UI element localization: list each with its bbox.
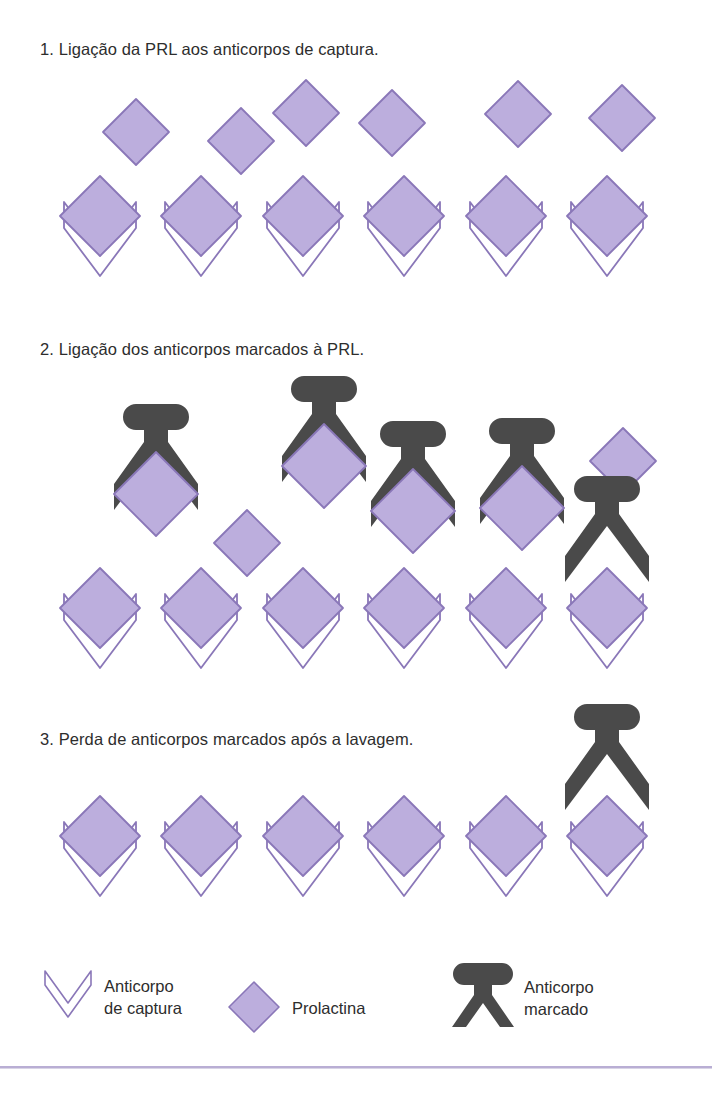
legend: Anticorpo de captura Prolactina Anticorp bbox=[0, 955, 712, 1045]
bottom-rule bbox=[0, 1066, 712, 1068]
labeled-antibody-icon bbox=[452, 961, 514, 1037]
legend-label-line1: Prolactina bbox=[292, 999, 365, 1017]
bottom-rule-inner bbox=[0, 1068, 712, 1069]
legend-label-line2: de captura bbox=[104, 999, 182, 1017]
legend-label-line2: marcado bbox=[524, 1000, 588, 1018]
legend-label-line1: Anticorpo bbox=[524, 978, 594, 996]
capture-antibody-icon bbox=[42, 967, 94, 1029]
legend-label-prolactin: Prolactina bbox=[292, 998, 365, 1020]
panel-3-stage bbox=[0, 0, 712, 960]
prolactin-diamond-icon bbox=[226, 979, 282, 1039]
diagram-page: 1. Ligação da PRL aos anticorpos de capt… bbox=[0, 0, 712, 1095]
legend-item-capture-antibody: Anticorpo de captura bbox=[42, 967, 182, 1029]
legend-item-prolactin: Prolactina bbox=[226, 979, 365, 1039]
legend-label-labeled-antibody: Anticorpo marcado bbox=[524, 977, 594, 1021]
legend-label-capture-antibody: Anticorpo de captura bbox=[104, 976, 182, 1020]
legend-item-labeled-antibody: Anticorpo marcado bbox=[452, 961, 594, 1037]
legend-label-line1: Anticorpo bbox=[104, 977, 174, 995]
